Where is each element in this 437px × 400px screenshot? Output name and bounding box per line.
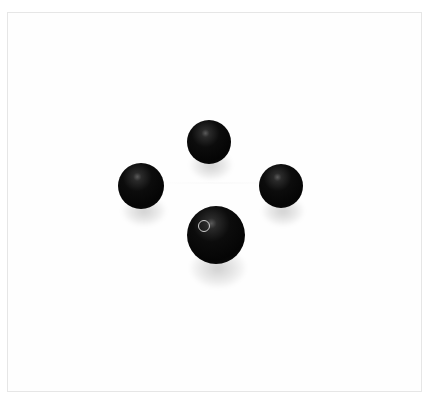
bead-top <box>187 120 231 164</box>
bead-hole <box>198 220 210 232</box>
bead-bottom <box>187 206 245 264</box>
bead-left <box>118 163 164 209</box>
bead-right <box>259 164 303 208</box>
photo-frame <box>7 12 422 392</box>
